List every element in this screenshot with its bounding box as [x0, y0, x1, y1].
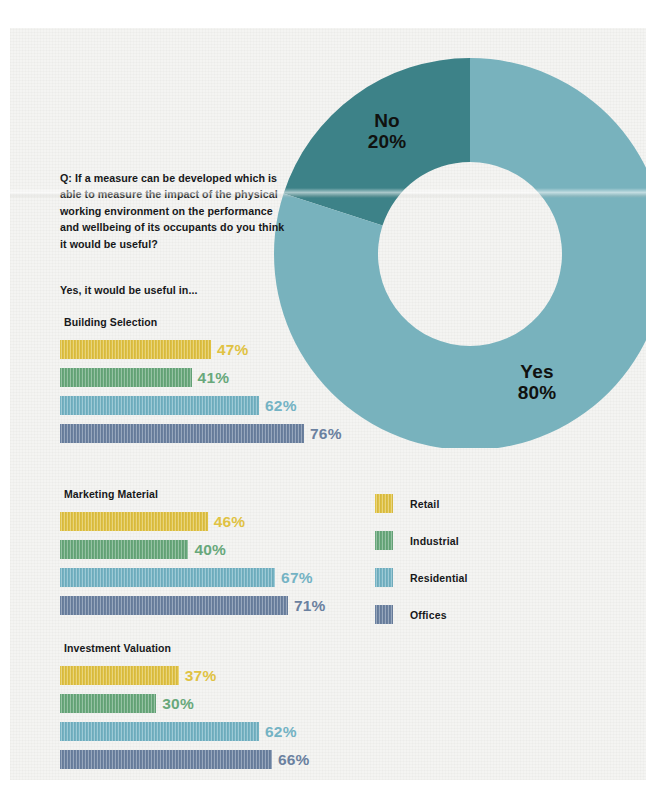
legend-item-industrial: Industrial	[375, 531, 468, 550]
question-text: Q: If a measure can be developed which i…	[60, 170, 292, 252]
bar-texture	[60, 666, 179, 685]
legend-item-residential: Residential	[375, 568, 468, 587]
legend-label: Retail	[410, 498, 440, 510]
paper-background: No 20% Yes 80% Q: If a measure can be de…	[10, 28, 646, 780]
bar-retail	[60, 340, 211, 359]
bar-value-label: 71%	[294, 597, 326, 615]
bar-section-investment-valuation: Investment Valuation 37%30%62%66%	[60, 642, 390, 777]
subheading-text: Yes, it would be useful in...	[60, 284, 300, 296]
bar-industrial	[60, 694, 156, 713]
bar-industrial	[60, 540, 188, 559]
bar-value-label: 67%	[281, 569, 313, 587]
bar-value-label: 62%	[265, 723, 297, 741]
section-title: Building Selection	[64, 316, 390, 328]
bar-value-label: 41%	[198, 369, 230, 387]
legend-label: Industrial	[410, 535, 459, 547]
bar-value-label: 47%	[217, 341, 249, 359]
bar-row: 40%	[60, 539, 390, 560]
bar-texture	[60, 694, 156, 713]
bar-texture	[60, 340, 211, 359]
legend-swatch-texture	[375, 494, 393, 513]
bar-value-label: 37%	[185, 667, 217, 685]
donut-slice-label-yes: Yes 80%	[497, 361, 577, 404]
bar-group: 47%41%62%76%	[60, 339, 390, 444]
bar-row: 47%	[60, 339, 390, 360]
bar-value-label: 66%	[278, 751, 310, 769]
bar-residential	[60, 396, 259, 415]
donut-no-value: 20%	[352, 131, 422, 152]
bar-texture	[60, 396, 259, 415]
bar-retail	[60, 666, 179, 685]
bar-row: 41%	[60, 367, 390, 388]
bar-row: 66%	[60, 749, 390, 770]
bar-row: 67%	[60, 567, 390, 588]
bar-industrial	[60, 368, 192, 387]
bar-texture	[60, 722, 259, 741]
section-title: Investment Valuation	[64, 642, 390, 654]
legend-swatch-texture	[375, 531, 393, 550]
donut-no-name: No	[352, 110, 422, 131]
bar-section-building-selection: Building Selection 47%41%62%76%	[60, 316, 390, 451]
bar-retail	[60, 512, 208, 531]
bar-row: 30%	[60, 693, 390, 714]
legend-swatch-texture	[375, 568, 393, 587]
bar-row: 37%	[60, 665, 390, 686]
bar-row: 62%	[60, 721, 390, 742]
bar-offices	[60, 596, 288, 615]
bar-row: 76%	[60, 423, 390, 444]
bar-row: 62%	[60, 395, 390, 416]
bar-value-label: 62%	[265, 397, 297, 415]
donut-slice-label-no: No 20%	[352, 110, 422, 153]
bar-group: 46%40%67%71%	[60, 511, 390, 616]
legend-swatch-icon	[375, 494, 393, 513]
bar-row: 46%	[60, 511, 390, 532]
legend-swatch-texture	[375, 605, 393, 624]
bar-offices	[60, 750, 272, 769]
legend-swatch-icon	[375, 568, 393, 587]
legend-swatch-icon	[375, 605, 393, 624]
bar-texture	[60, 568, 275, 587]
bar-texture	[60, 540, 188, 559]
bar-texture	[60, 596, 288, 615]
bar-residential	[60, 568, 275, 587]
donut-yes-name: Yes	[497, 361, 577, 382]
bar-texture	[60, 512, 208, 531]
donut-yes-value: 80%	[497, 382, 577, 403]
bar-value-label: 30%	[162, 695, 194, 713]
bar-texture	[60, 368, 192, 387]
legend-label: Offices	[410, 609, 447, 621]
bar-texture	[60, 750, 272, 769]
legend-item-retail: Retail	[375, 494, 468, 513]
bar-offices	[60, 424, 304, 443]
infographic-page: No 20% Yes 80% Q: If a measure can be de…	[0, 0, 667, 808]
bar-group: 37%30%62%66%	[60, 665, 390, 770]
legend-item-offices: Offices	[375, 605, 468, 624]
bar-value-label: 40%	[194, 541, 226, 559]
legend-label: Residential	[410, 572, 468, 584]
bar-value-label: 76%	[310, 425, 342, 443]
bar-value-label: 46%	[214, 513, 246, 531]
bar-row: 71%	[60, 595, 390, 616]
section-title: Marketing Material	[64, 488, 390, 500]
legend-swatch-icon	[375, 531, 393, 550]
chart-legend: RetailIndustrialResidentialOffices	[375, 494, 468, 642]
bar-texture	[60, 424, 304, 443]
bar-residential	[60, 722, 259, 741]
bar-section-marketing-material: Marketing Material 46%40%67%71%	[60, 488, 390, 623]
